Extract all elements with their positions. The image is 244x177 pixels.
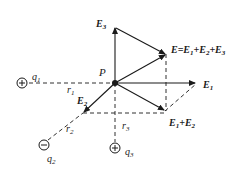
e2-vector: [84, 83, 115, 112]
r2-label: r2: [66, 123, 74, 136]
e3-shifted-vector: [116, 28, 165, 54]
q2-label: q2: [47, 153, 56, 166]
e12-vector: [115, 83, 164, 110]
r1-label: r1: [67, 84, 74, 97]
charge-q3: [110, 143, 120, 153]
e3-label: E3: [95, 18, 107, 31]
construction-lines: [29, 54, 196, 142]
q1-label: q1: [32, 71, 41, 84]
point-p-label: P: [98, 66, 106, 78]
point-p: [112, 80, 118, 86]
field-superposition-diagram: P q1 q2 q3 r1 r2 r3 E3 E1 E2 E1+E2 E=E1+…: [0, 0, 244, 177]
e2-label: E2: [76, 95, 88, 108]
q3-label: q3: [125, 146, 134, 159]
e-resultant-vector: [115, 55, 165, 83]
r3-label: r3: [122, 120, 130, 133]
e12-label: E1+E2: [168, 117, 196, 130]
e1-label: E1: [202, 79, 213, 92]
e-resultant-label: E=E1+E2+E3: [170, 44, 226, 57]
e12-parallel-dash: [165, 84, 196, 111]
charge-q2: [39, 140, 49, 150]
charge-q1: [17, 78, 27, 88]
